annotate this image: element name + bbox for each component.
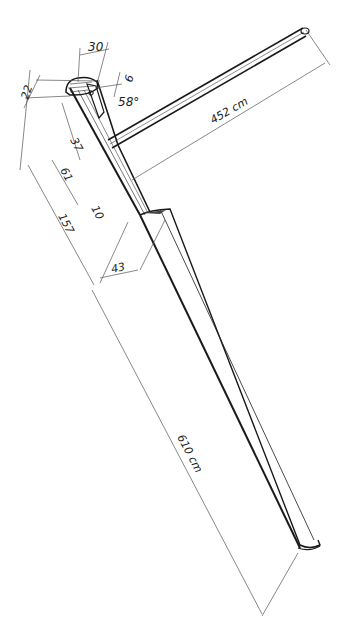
label-head-width: 30 xyxy=(88,40,104,54)
label-tiller-angle: 58° xyxy=(118,95,139,109)
label-head-height: 22 xyxy=(18,84,35,101)
dimension-lines xyxy=(20,30,330,616)
label-dist-37: 37 xyxy=(67,135,85,153)
rudder-blade xyxy=(140,209,320,550)
label-dist-61: 61 xyxy=(57,165,75,183)
label-tiller-offset: 9 xyxy=(121,73,135,83)
rudder-diagram: 30 22 9 58° 452 cm 37 61 10 157 43 610 c… xyxy=(0,0,347,642)
label-total-length: 610 cm xyxy=(174,432,205,475)
label-blade-width: 43 xyxy=(110,260,126,276)
dimension-labels: 30 22 9 58° 452 cm 37 61 10 157 43 610 c… xyxy=(18,40,250,475)
label-tiller-length: 452 cm xyxy=(208,95,250,127)
label-dist-10: 10 xyxy=(88,203,106,221)
label-dist-157: 157 xyxy=(55,211,76,236)
tiller xyxy=(108,28,309,148)
